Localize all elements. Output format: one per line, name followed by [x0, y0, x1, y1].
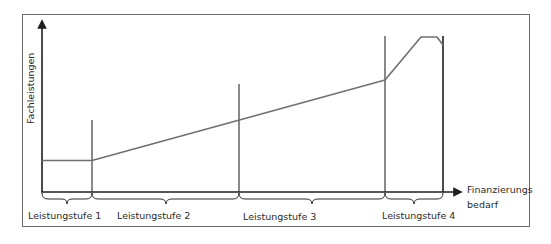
brace-stage-2 [92, 193, 239, 204]
brace-stage-1 [42, 193, 92, 204]
x-axis-label: Finanzierungs bedarf [467, 182, 533, 212]
y-axis-label: Fachleistungen [26, 53, 36, 124]
stage-label-2: Leistungstufe 2 [117, 211, 190, 221]
brace-stage-3 [239, 193, 385, 204]
stage-label-3: Leistungstufe 3 [243, 212, 316, 222]
fachleistungen-line [42, 37, 443, 161]
brace-stage-4 [385, 193, 443, 204]
stage-label-4: Leistungstufe 4 [382, 211, 455, 221]
stage-label-1: Leistungstufe 1 [28, 211, 101, 221]
x-axis-label-line1: Finanzierungs [467, 182, 533, 197]
x-axis-label-line2: bedarf [467, 197, 533, 212]
